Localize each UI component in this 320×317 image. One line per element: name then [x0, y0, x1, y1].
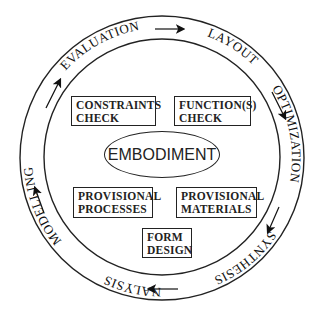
embodiment-ellipse: EMBODIMENT — [104, 131, 220, 178]
embodiment-label: EMBODIMENT — [108, 146, 216, 164]
provisional-materials-box: PROVISIONAL MATERIALS — [176, 187, 257, 218]
stage-evaluation: EVALUATION — [57, 18, 141, 73]
functions-check-box: FUNCTION(S) CHECK — [174, 96, 251, 126]
box-line: PROCESSES — [78, 203, 148, 216]
box-line: CHECK — [179, 112, 246, 125]
box-line: CHECK — [76, 112, 151, 125]
stage-layout: LAYOUT — [206, 25, 262, 68]
constraints-check-box: CONSTRAINTS CHECK — [71, 96, 156, 126]
box-line: MATERIALS — [181, 203, 252, 216]
box-line: DESIGN — [147, 244, 187, 257]
box-line: CONSTRAINTS — [76, 99, 151, 112]
provisional-processes-box: PROVISIONAL PROCESSES — [73, 187, 153, 218]
arrow-layout-evaluation — [46, 80, 60, 108]
box-line: PROVISIONAL — [181, 190, 252, 203]
box-line: FUNCTION(S) — [179, 99, 246, 112]
box-line: FORM — [147, 231, 187, 244]
form-design-box: FORM DESIGN — [142, 228, 192, 258]
arrow-analysis-synthesis — [268, 207, 279, 232]
box-line: PROVISIONAL — [78, 190, 148, 203]
